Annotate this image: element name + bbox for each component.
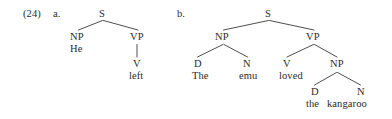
branch-a-s-np — [79, 21, 103, 31]
tree-b-node-d-subject: D — [194, 58, 202, 69]
tree-b-node-vp: VP — [306, 31, 320, 42]
tree-b-node-v: V — [283, 58, 291, 69]
tree-a-node-s: S — [99, 8, 105, 19]
tree-b-node-n-object: N — [357, 86, 365, 97]
tree-b-word-loved: loved — [279, 70, 303, 81]
tree-a-word-he: He — [70, 43, 82, 54]
tree-a-word-left: left — [129, 70, 143, 81]
syntax-tree-figure: (24) a. b. S NP He VP V left S NP VP D T… — [0, 0, 392, 119]
tree-b-node-np-subject: NP — [215, 31, 229, 42]
branch-b-np-n — [224, 45, 248, 58]
tree-b-word-the-object: the — [306, 98, 319, 109]
example-number: (24) — [23, 8, 41, 19]
item-letter-a: a. — [53, 8, 61, 19]
item-letter-b: b. — [177, 8, 185, 19]
tree-b-node-n-subject: N — [243, 58, 251, 69]
tree-b-node-d-object: D — [311, 86, 319, 97]
branch-b-npobj-d — [315, 73, 337, 86]
branch-b-npobj-n — [338, 73, 361, 86]
branch-b-vp-np — [315, 45, 338, 58]
tree-a-node-vp: VP — [130, 31, 144, 42]
tree-a-node-np: NP — [70, 31, 84, 42]
tree-b-word-kangaroo: kangaroo — [327, 98, 367, 109]
branch-a-s-vp — [104, 21, 139, 31]
branch-b-vp-v — [287, 45, 314, 58]
branch-b-s-np — [224, 21, 269, 31]
tree-b-word-the-subject: The — [192, 70, 209, 81]
tree-b-node-s: S — [265, 8, 271, 19]
branch-b-np-d — [198, 45, 224, 58]
tree-a-node-v: V — [133, 58, 141, 69]
tree-b-node-np-object: NP — [330, 58, 344, 69]
tree-b-word-emu: emu — [239, 70, 257, 81]
branch-b-s-vp — [270, 21, 315, 31]
